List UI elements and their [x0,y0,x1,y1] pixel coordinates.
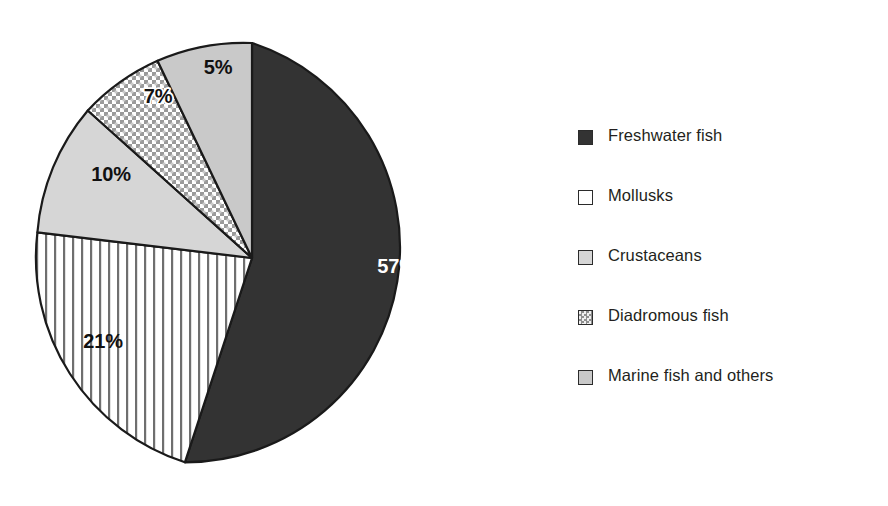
legend: Freshwater fish Mollusks Crustaceans Dia… [578,124,878,424]
legend-swatch-crustaceans-icon [578,250,593,265]
legend-swatch-diadromous-fish-icon [578,310,593,325]
legend-swatch-marine-fish-and-others-icon [578,370,593,385]
legend-item-diadromous-fish[interactable]: Diadromous fish [578,304,878,364]
pie-svg: 57% 21% 10% 7% 5% [0,0,520,506]
legend-label-diadromous-fish: Diadromous fish [608,304,729,326]
legend-label-mollusks: Mollusks [608,184,673,206]
legend-item-crustaceans[interactable]: Crustaceans [578,244,878,304]
pie-chart-figure: 57% 21% 10% 7% 5% Freshwater fish Mollus… [0,0,888,506]
legend-item-marine-fish-and-others[interactable]: Marine fish and others [578,364,878,424]
pie-chart-plot-area: 57% 21% 10% 7% 5% [0,0,520,506]
legend-swatch-freshwater-fish-icon [578,130,593,145]
legend-swatch-mollusks-icon [578,190,593,205]
legend-item-mollusks[interactable]: Mollusks [578,184,878,244]
pie-label-mollusks: 21% [83,330,123,352]
pie-label-marine-fish-and-others: 5% [204,56,233,78]
pie-label-crustaceans: 10% [91,163,131,185]
pie-label-diadromous-fish: 7% [144,85,173,107]
legend-item-freshwater-fish[interactable]: Freshwater fish [578,124,878,184]
pie-slices [36,43,400,462]
legend-label-freshwater-fish: Freshwater fish [608,124,722,146]
legend-label-marine-fish-and-others: Marine fish and others [608,364,773,386]
pie-label-freshwater-fish: 57% [377,255,417,277]
legend-label-crustaceans: Crustaceans [608,244,702,266]
